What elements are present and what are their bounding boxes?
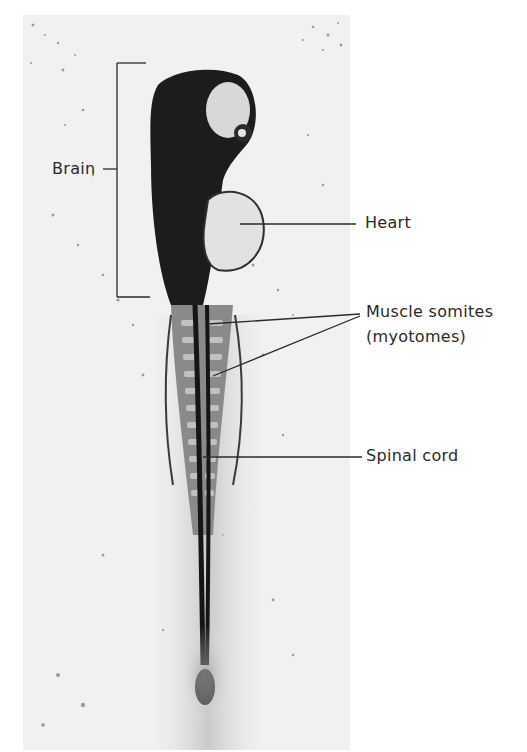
- annotation-lines: [0, 0, 527, 752]
- spinal-cord-label: Spinal cord: [366, 446, 459, 466]
- heart-label: Heart: [365, 213, 411, 233]
- myotomes-label: (myotomes): [366, 327, 466, 347]
- somites-leader-line-2: [213, 316, 360, 376]
- brain-label: Brain: [52, 159, 95, 179]
- muscle-somites-label: Muscle somites: [366, 302, 493, 322]
- somites-leader-line-1: [208, 314, 360, 324]
